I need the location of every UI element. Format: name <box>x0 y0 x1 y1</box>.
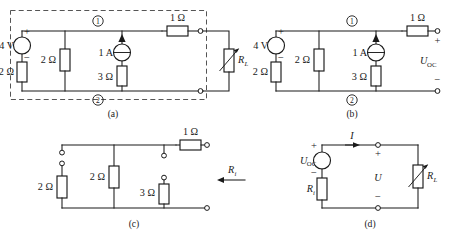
panel-d-terminal-top <box>376 143 381 148</box>
panel-a-resistor-2ohm-mid <box>60 49 70 71</box>
panel-b-resistor-1ohm <box>407 26 428 36</box>
panel-c-terminal-top <box>205 143 210 148</box>
panel-d-ri-resistor-body <box>317 178 327 200</box>
panel-c-resistor-1ohm-label: 1 Ω <box>183 126 199 137</box>
panel-a-source-plus: + <box>24 26 30 37</box>
panel-a-resistor-2ohm-mid-label: 2 Ω <box>41 54 57 65</box>
panel-b-terminal-minus: − <box>435 74 441 85</box>
panel-a-node-2-label: 2 <box>96 96 100 105</box>
panel-a-terminal-bottom <box>198 89 203 94</box>
panel-b-current-source-label: 1 A <box>353 47 368 58</box>
panel-c-resistor-1ohm <box>180 140 201 150</box>
panel-d-terminal-bottom <box>376 206 381 211</box>
panel-a-current-arrow-icon <box>118 34 125 42</box>
panel-b-terminal-top <box>435 29 440 34</box>
panel-b-resistor-2ohm-series-label: 2 Ω <box>253 66 269 77</box>
panel-d-current-arrowhead-icon <box>353 142 360 147</box>
panel-c-resistor-2ohm-mid-label: 2 Ω <box>90 171 106 182</box>
panel-b: 4 V + − 2 Ω 2 Ω 1 A 3 Ω 1 2 <box>253 12 441 120</box>
panel-c-ri-sublabel: i <box>235 170 237 177</box>
panel-c-cs-open-terminal-lower <box>162 175 167 180</box>
circuit-figure: 4 V + − 2 Ω 2 Ω 1 A 3 Ω 1 2 <box>0 0 458 242</box>
panel-b-resistor-2ohm-series <box>271 62 281 82</box>
panel-b-node-2-label: 2 <box>350 96 354 105</box>
panel-a-voltage-source-label: 4 V <box>0 40 15 51</box>
panel-c-resistor-3ohm-label: 3 Ω <box>140 187 156 198</box>
panel-b-resistor-3ohm-label: 3 Ω <box>352 71 368 82</box>
panel-c-resistor-2ohm-mid <box>109 166 119 188</box>
panel-d-source-plus: + <box>311 140 317 151</box>
panel-d: U OC + − R i I + − U R L (d) <box>300 130 438 230</box>
panel-d-load-sublabel: L <box>433 176 438 183</box>
panel-a-resistor-3ohm-label: 3 Ω <box>98 71 114 82</box>
panel-b-node-1-label: 1 <box>350 17 354 26</box>
panel-b-uoc-sublabel: OC <box>427 61 437 68</box>
panel-c-cs-open-terminal-upper <box>162 153 167 158</box>
panel-c-terminal-bottom <box>205 206 210 211</box>
panel-a-resistor-1ohm <box>167 26 188 36</box>
panel-c: 2 Ω 2 Ω 3 Ω 1 Ω R <box>38 126 245 230</box>
panel-d-source-minus: − <box>311 167 317 178</box>
panel-c-caption: (c) <box>129 218 140 230</box>
panel-a-resistor-2ohm-series-label: 2 Ω <box>0 66 14 77</box>
panel-b-caption: (b) <box>346 108 357 120</box>
panel-b-terminal-plus: + <box>435 35 441 46</box>
panel-a: 4 V + − 2 Ω 2 Ω 1 A 3 Ω 1 2 <box>0 11 249 121</box>
panel-b-resistor-2ohm-mid-label: 2 Ω <box>295 54 311 65</box>
panel-a-node-1-label: 1 <box>96 17 100 26</box>
panel-b-source-plus: + <box>278 26 284 37</box>
panel-d-current-label: I <box>349 130 354 141</box>
panel-b-resistor-2ohm-mid <box>314 49 324 71</box>
panel-a-terminal-top <box>198 29 203 34</box>
panel-a-resistor-3ohm <box>117 66 127 86</box>
panel-d-voltage-label: U <box>374 172 382 183</box>
panel-d-ri-sublabel: i <box>313 189 315 196</box>
panel-a-resistor-1ohm-label: 1 Ω <box>170 12 186 23</box>
panel-b-source-minus: − <box>278 52 284 63</box>
panel-a-caption: (a) <box>108 108 119 120</box>
panel-d-uoc-sublabel: OC <box>307 160 317 167</box>
panel-d-terminal-minus: − <box>375 191 381 202</box>
panel-b-resistor-3ohm <box>371 66 381 86</box>
panel-c-resistor-2ohm-left-label: 2 Ω <box>38 181 54 192</box>
panel-c-ri-arrowhead-icon <box>217 177 224 183</box>
panel-c-open-terminal-upper <box>60 150 65 155</box>
panel-a-current-source-label: 1 A <box>99 47 114 58</box>
panel-a-source-minus: − <box>24 52 30 63</box>
panel-b-current-arrow-icon <box>372 34 379 42</box>
panel-a-load-sublabel: L <box>244 60 249 67</box>
panel-c-resistor-2ohm-left <box>57 176 67 198</box>
panel-b-resistor-1ohm-label: 1 Ω <box>410 12 426 23</box>
panel-c-resistor-3ohm <box>159 184 169 204</box>
panel-b-voltage-source-label: 4 V <box>253 40 268 51</box>
panel-c-open-terminal-lower <box>60 161 65 166</box>
panel-d-caption: (d) <box>364 218 375 230</box>
panel-b-terminal-bottom <box>435 89 440 94</box>
panel-d-terminal-plus: + <box>375 148 381 159</box>
panel-a-resistor-2ohm-series <box>17 62 27 82</box>
